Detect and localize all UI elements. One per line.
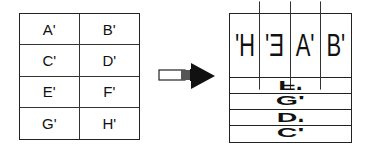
folded-grid: H' E' A' B' F' G' D' C' (229, 13, 352, 143)
arrow-right-icon (157, 59, 217, 93)
cell-c: C' (20, 45, 80, 76)
original-grid: A' B' C' D' E' F' G' H' (19, 13, 140, 140)
folded-top-row: H' E' A' B' (230, 14, 351, 78)
cell-b: B' (80, 14, 140, 45)
cell-h: H' (80, 108, 140, 139)
strip-g: G' (230, 93, 351, 110)
cell-e: E' (20, 77, 80, 108)
cell-a: A' (20, 14, 80, 45)
strip-f: F' (230, 77, 351, 94)
cell-f: F' (80, 77, 140, 108)
cell-d: D' (80, 45, 140, 76)
strip-d: D' (230, 109, 351, 126)
strip-c: C' (230, 125, 351, 141)
cell-g: G' (20, 108, 80, 139)
